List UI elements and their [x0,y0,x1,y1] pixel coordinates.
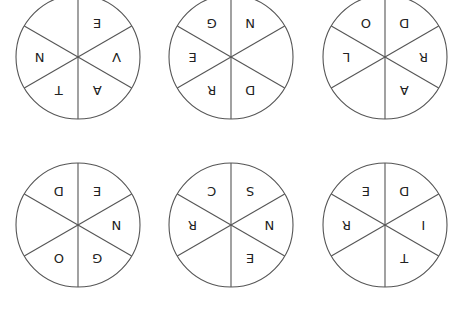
wheel-letter: N [35,50,45,65]
wheel-letter: G [92,251,102,266]
letter-wheel: SNERC [169,163,293,287]
wheel-letter: D [399,184,409,199]
wheel-letter: R [419,50,428,65]
wheel-letter: R [188,218,197,233]
letter-wheel: EVATN [16,0,140,119]
wheel-letter: D [54,184,64,199]
wheel-letter: E [188,50,196,65]
wheel-letter: R [342,218,351,233]
wheel-letter: E [93,184,101,199]
wheel-letter: L [342,50,350,65]
letter-wheel: NDREG [169,0,293,119]
wheel-letter: E [246,251,254,266]
wheel-letter: T [400,251,409,266]
letter-wheel: DITRE [323,163,447,287]
letter-wheel: DRALO [323,0,447,119]
wheel-letter: R [207,83,216,98]
wheel-letter: G [207,16,217,31]
wheel-letter: N [245,16,255,31]
wheel-letter: D [399,16,409,31]
wheel-letter: V [112,50,121,65]
wheel-letter: I [422,218,426,233]
wheel-letter: D [245,83,255,98]
wheel-letter: E [93,16,101,31]
wheel-letter: O [54,251,64,266]
wheel-letter: S [246,184,254,199]
wheel-letter: N [112,218,122,233]
wheel-letter: T [55,83,64,98]
wheel-letter: N [265,218,275,233]
wheel-letter: C [207,184,216,199]
letter-wheel: ENGOD [16,163,140,287]
wheel-letter: A [93,83,102,98]
wheel-letter: A [400,83,409,98]
letter-wheels-puzzle: EVATNNDREGDRALOENGODSNERCDITRE [0,0,455,317]
wheel-letter: O [361,16,371,31]
wheel-letter: E [362,184,370,199]
